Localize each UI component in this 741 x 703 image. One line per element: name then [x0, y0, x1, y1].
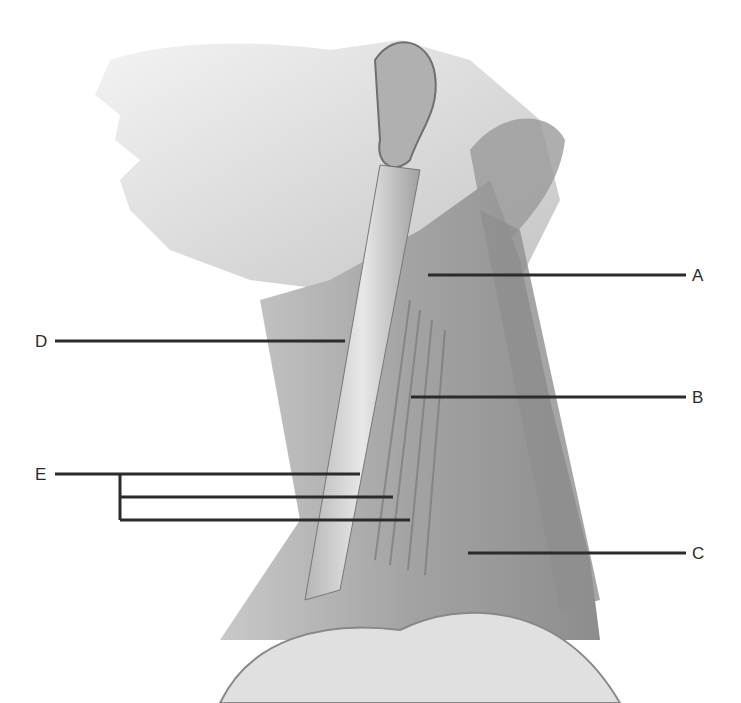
anatomy-diagram: A B C D E: [0, 0, 741, 703]
label-e: E: [35, 466, 46, 483]
label-d: D: [35, 333, 47, 350]
label-c: C: [692, 545, 704, 562]
label-a: A: [692, 267, 703, 284]
label-b: B: [692, 389, 703, 406]
neck-illustration: [0, 0, 741, 703]
